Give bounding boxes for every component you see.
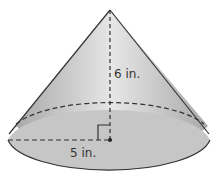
height-label: 6 in.: [114, 67, 140, 81]
center-point: [108, 138, 112, 142]
cone-diagram: 6 in. 5 in.: [0, 0, 222, 183]
radius-label: 5 in.: [70, 146, 96, 160]
